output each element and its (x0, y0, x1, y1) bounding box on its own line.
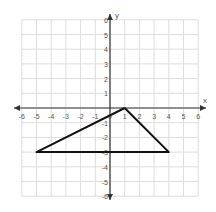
y-tick-label: 2 (104, 76, 108, 83)
y-tick-label: 3 (104, 61, 108, 68)
y-tick-label: 5 (104, 32, 108, 39)
y-tick-label: -5 (102, 179, 108, 186)
x-tick-label: 2 (137, 113, 141, 120)
x-tick-label: 6 (196, 113, 200, 120)
x-arrow-left-icon (14, 105, 20, 111)
y-tick-label: -6 (102, 193, 108, 200)
x-axis-label: x (203, 96, 207, 105)
y-tick-label: -2 (102, 134, 108, 141)
x-tick-label: 1 (123, 113, 127, 120)
y-axis-label: y (115, 11, 119, 20)
x-tick-label: -2 (77, 113, 83, 120)
y-tick-label: -1 (102, 120, 108, 127)
x-arrow-right-icon (200, 105, 206, 111)
y-tick-label: 4 (104, 46, 108, 53)
x-tick-label: -3 (63, 113, 69, 120)
x-tick-label: 4 (167, 113, 171, 120)
x-tick-label: -1 (92, 113, 98, 120)
y-tick-label: 1 (104, 90, 108, 97)
y-tick-label: 6 (104, 17, 108, 24)
x-tick-label: -6 (19, 113, 25, 120)
y-tick-label: -4 (102, 164, 108, 171)
triangle-shape (37, 108, 169, 152)
x-tick-label: 5 (182, 113, 186, 120)
x-tick-label: -5 (33, 113, 39, 120)
x-tick-label: 3 (152, 113, 156, 120)
coordinate-plane: xy-6-5-4-3-2-10123456-6-5-4-3-2-1123456 (0, 0, 216, 212)
x-tick-label: -4 (48, 113, 54, 120)
